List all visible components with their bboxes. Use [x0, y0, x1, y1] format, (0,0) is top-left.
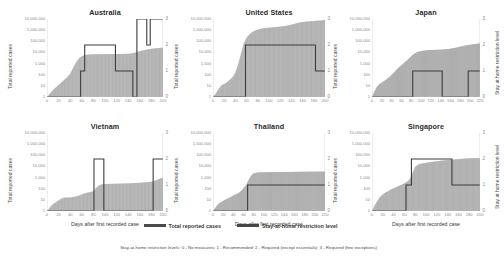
y-axis-tick-label: 10,000,000 [25, 131, 46, 135]
x-axis-tick-label: 40 [233, 99, 238, 103]
y-axis-tick-label: 1,000,000 [352, 142, 370, 146]
y-axis-tick-label: 10,000,000 [191, 17, 212, 21]
x-axis-tick-label: 80 [409, 99, 414, 103]
bar-series [213, 20, 325, 97]
y-axis-tick-label: 10 [40, 84, 45, 88]
x-axis-tick-label: 220 [322, 213, 329, 217]
y-axis-tick-label: 10,000 [198, 164, 211, 168]
y-axis-tick-label: 1,000,000 [27, 142, 45, 146]
x-axis-tick-label: 60 [241, 213, 246, 217]
x-axis-tick-label: 220 [477, 99, 484, 103]
x-axis-tick-label: 140 [125, 99, 132, 103]
y-axis-tick-label: 10,000,000 [25, 17, 46, 21]
y-axis-tick-label: 10 [365, 198, 370, 202]
plot-svg [213, 19, 325, 97]
y-axis-tick-label: 10,000,000 [350, 131, 371, 135]
x-axis-tick-label: 100 [266, 99, 273, 103]
plot-area: 1101001,00010,000100,0001,000,00010,000,… [213, 19, 325, 97]
x-axis-tick-label: 60 [80, 213, 85, 217]
y-axis-tick-label: 1 [43, 95, 45, 99]
plot-svg [47, 19, 163, 97]
x-axis-tick-label: 140 [125, 213, 132, 217]
x-axis-tick-label: 160 [136, 213, 143, 217]
x-axis-tick-label: 200 [311, 213, 318, 217]
plot-svg [372, 133, 480, 211]
y-axis-title: Total reported cases [173, 158, 179, 203]
x-axis-tick-label: 160 [136, 99, 143, 103]
x-axis-title: Days after first recorded case [235, 221, 303, 227]
y-axis-tick-label: 10,000 [198, 50, 211, 54]
x-axis-tick-label: 180 [148, 99, 155, 103]
plot-svg [213, 133, 325, 211]
y2-axis-tick-label: 3 [166, 17, 169, 22]
y-axis-tick-label: 10,000 [32, 50, 45, 54]
x-axis-tick-label: 60 [399, 99, 404, 103]
x-axis-tick-label: 140 [444, 213, 451, 217]
y2-axis-tick-label: 2 [483, 157, 486, 162]
y-axis-tick-label: 100,000 [30, 39, 45, 43]
figure-footnote: Stay-at-home restriction levels: 0 - No … [0, 245, 497, 250]
y2-axis-tick-label: 1 [328, 183, 331, 188]
x-axis-tick-label: 20 [380, 99, 385, 103]
x-axis-tick-label: 120 [277, 99, 284, 103]
y-axis-tick-label: 100 [38, 73, 45, 77]
x-axis-tick-label: 180 [310, 99, 317, 103]
plot-area: 1101001,00010,000100,0001,000,00010,000,… [213, 133, 325, 211]
y-axis-title: Total reported cases [7, 158, 13, 203]
x-axis-tick-label: 0 [212, 213, 214, 217]
x-axis-tick-label: 20 [56, 99, 61, 103]
y-axis-tick-label: 1 [209, 95, 211, 99]
y2-axis-tick-label: 1 [483, 183, 486, 188]
x-axis-tick-label: 160 [455, 213, 462, 217]
y-axis-tick-label: 10,000 [32, 164, 45, 168]
plot-area: 1101001,00010,000100,0001,000,00010,000,… [47, 133, 163, 211]
y-axis-tick-label: 100,000 [355, 39, 370, 43]
y2-axis-tick-label: 2 [328, 43, 331, 48]
x-axis-tick-label: 60 [80, 99, 85, 103]
x-axis-tick-label: 200 [467, 99, 474, 103]
x-axis-tick-label: 100 [102, 213, 109, 217]
y2-axis-tick-label: 3 [483, 131, 486, 136]
x-axis-tick-label: 120 [113, 99, 120, 103]
x-axis-tick-label: 100 [102, 99, 109, 103]
y2-axis-tick-label: 3 [328, 131, 331, 136]
y-axis-tick-label: 1,000 [201, 176, 211, 180]
y2-axis-title: Stay at home restriction level [494, 145, 500, 209]
panel-title: Japan [362, 8, 490, 17]
y-axis-title: Total reported cases [7, 44, 13, 89]
plot-svg [47, 133, 163, 211]
plot-area: 1101001,00010,000100,0001,000,00010,000,… [372, 19, 480, 97]
x-axis-tick-label: 0 [46, 99, 48, 103]
x-axis-tick-label: 60 [402, 213, 407, 217]
y-axis-tick-label: 10 [206, 84, 211, 88]
y-axis-tick-label: 10,000 [357, 164, 370, 168]
y-axis-tick-label: 100 [38, 187, 45, 191]
y-axis-tick-label: 100,000 [30, 153, 45, 157]
x-axis-tick-label: 0 [371, 213, 373, 217]
legend-swatch-cases [144, 224, 166, 226]
y-axis-tick-label: 1 [209, 209, 211, 213]
x-axis-tick-label: 40 [231, 213, 236, 217]
x-axis-tick-label: 80 [251, 213, 256, 217]
x-axis-tick-label: 120 [113, 213, 120, 217]
y-axis-tick-label: 10,000,000 [191, 131, 212, 135]
bar-series [47, 48, 163, 97]
y-axis-tick-label: 1,000 [360, 62, 370, 66]
x-axis-tick-label: 80 [91, 213, 96, 217]
plot-svg [372, 19, 480, 97]
y2-axis-tick-label: 1 [328, 69, 331, 74]
x-axis-tick-label: 160 [447, 99, 454, 103]
x-axis-tick-label: 40 [68, 213, 73, 217]
y-axis-tick-label: 1,000,000 [193, 28, 211, 32]
panel-title: Australia [37, 8, 173, 17]
y-axis-tick-label: 100 [363, 73, 370, 77]
x-axis-tick-label: 120 [433, 213, 440, 217]
y-axis-title: Total reported cases [332, 44, 338, 89]
y-axis-tick-label: 1,000 [35, 62, 45, 66]
x-axis-tick-label: 200 [160, 213, 167, 217]
panel-title: Vietnam [37, 122, 173, 131]
y-axis-tick-label: 100 [363, 187, 370, 191]
x-axis-tick-label: 20 [56, 213, 61, 217]
y2-axis-tick-label: 1 [166, 183, 169, 188]
